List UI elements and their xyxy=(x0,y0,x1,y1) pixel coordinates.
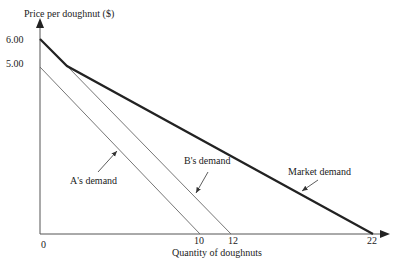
b-demand-arrow-icon xyxy=(196,172,208,193)
y-axis-title: Price per doughnut ($) xyxy=(24,8,114,20)
market-demand-line xyxy=(40,39,373,234)
y-axis-arrow-icon xyxy=(36,18,44,28)
x-axis-title: Quantity of doughnuts xyxy=(172,247,262,258)
x-tick-10: 10 xyxy=(194,235,204,246)
y-tick-6: 6.00 xyxy=(6,34,24,45)
y-tick-5: 5.00 xyxy=(6,58,24,69)
a-demand-label: A's demand xyxy=(70,175,117,186)
a-demand-line xyxy=(40,67,200,234)
market-demand-label: Market demand xyxy=(288,166,351,177)
b-demand-line xyxy=(67,66,231,234)
x-tick-22: 22 xyxy=(367,235,377,246)
x-tick-0: 0 xyxy=(41,239,46,250)
market-demand-arrow-icon xyxy=(302,180,318,191)
demand-chart: 6.00 5.00 0 10 12 22 Price per doughnut … xyxy=(0,0,405,269)
b-demand-label: B's demand xyxy=(184,155,231,166)
x-axis-arrow-icon xyxy=(380,230,390,238)
a-demand-arrow-icon xyxy=(98,151,117,172)
x-tick-12: 12 xyxy=(228,235,238,246)
